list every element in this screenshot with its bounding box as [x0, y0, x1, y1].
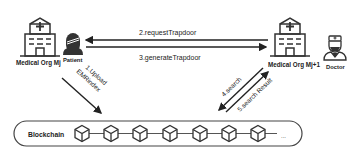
block-icon	[163, 126, 177, 142]
block-icon	[133, 126, 147, 142]
edge-request-trapdoor: 2.requestTrapdoor	[86, 29, 268, 40]
blockchain-ellipsis: ...	[281, 133, 286, 139]
block-icon	[104, 126, 118, 142]
edge-request-trapdoor-label: 2.requestTrapdoor	[139, 29, 197, 37]
hospital-icon-right	[270, 18, 310, 56]
doctor-icon	[324, 36, 346, 60]
blockchain: Blockchain ...	[14, 121, 302, 146]
edge-generate-trapdoor-label: 3.generateTrapdoor	[139, 54, 201, 62]
block-icon	[193, 126, 207, 142]
org-left-label: Medical Org Mj	[16, 59, 61, 67]
blockchain-label: Blockchain	[28, 131, 64, 138]
block-icon	[75, 126, 89, 142]
edge-search-label: 4.search	[220, 75, 243, 98]
block-icon	[251, 126, 265, 142]
edge-search-result-label: 5.search Result	[236, 76, 273, 113]
patient-label: Patient	[63, 57, 82, 63]
edge-generate-trapdoor: 3.generateTrapdoor	[86, 47, 266, 62]
org-right-label: Medical Org Mj+1	[268, 61, 320, 69]
edge-search-result: 5.search Result	[226, 72, 273, 113]
patient-icon	[63, 33, 83, 55]
edge-upload-emrindex: 1.Upload EMRindex	[62, 64, 109, 113]
hospital-icon-left	[20, 18, 60, 56]
doctor-label: Doctor	[326, 64, 345, 70]
block-icon	[222, 126, 236, 142]
